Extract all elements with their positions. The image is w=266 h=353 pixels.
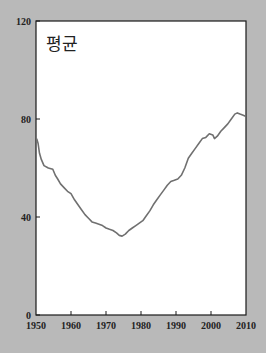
y-tick-label: 80 xyxy=(21,114,31,125)
y-tick-label: 120 xyxy=(16,16,31,27)
x-tick-label: 1960 xyxy=(61,320,81,331)
y-tick-label: 40 xyxy=(21,212,31,223)
y-tick-label: 0 xyxy=(26,310,31,321)
x-tick-label: 1980 xyxy=(131,320,151,331)
x-tick-label: 1950 xyxy=(26,320,46,331)
line-chart: 04080120 1950196019701980199020002010 평균 xyxy=(0,0,266,353)
x-tick-label: 2010 xyxy=(236,320,256,331)
chart-title: 평균 xyxy=(46,34,78,54)
x-tick-label: 1990 xyxy=(166,320,186,331)
x-tick-label: 2000 xyxy=(201,320,221,331)
x-tick-label: 1970 xyxy=(96,320,116,331)
plot-area xyxy=(36,21,246,315)
